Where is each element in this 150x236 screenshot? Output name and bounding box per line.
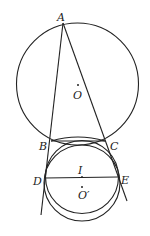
- line-ab: [41, 23, 63, 215]
- label-i: I: [77, 164, 83, 177]
- line-ac: [63, 23, 127, 201]
- label-c: C: [110, 140, 119, 153]
- diagram-svg: A O B C D E I O′: [0, 0, 150, 236]
- geometry-diagram: A O B C D E I O′: [0, 0, 150, 236]
- label-d: D: [32, 175, 42, 188]
- label-e: E: [120, 174, 129, 187]
- label-o: O: [73, 89, 82, 102]
- circumcircle: [17, 23, 139, 145]
- center-dot-o: [77, 84, 79, 86]
- label-a: A: [56, 11, 65, 24]
- circle-o-prime: [44, 145, 120, 221]
- label-o-prime: O′: [78, 189, 90, 202]
- label-b: B: [38, 140, 47, 153]
- center-dot-o-prime: [81, 186, 83, 188]
